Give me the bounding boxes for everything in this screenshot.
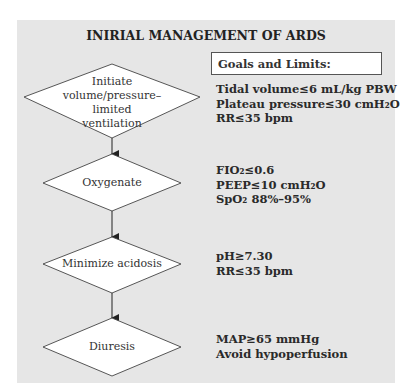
step-2-label-line: Oxygenate [52,176,172,190]
note-line: MAP≥65 mmHg [216,332,348,347]
step-3-label-line: Minimize acidosis [52,257,172,271]
step-1-notes: Tidal volume≤6 mL/kg PBW Plateau pressur… [216,82,400,126]
step-3-notes: pH≥7.30 RR≤35 bpm [216,249,293,278]
goals-and-limits-header: Goals and Limits: [211,52,382,75]
step-4-label-line: Diuresis [52,340,172,354]
step-3-label: Minimize acidosis [52,257,172,271]
step-1-label-line: volume/pressure–limited [44,89,180,117]
step-2-notes: FIO₂≤0.6 PEEP≤10 cmH₂O SpO₂ 88%–95% [216,163,326,207]
note-line: RR≤35 bpm [216,264,293,279]
step-4-notes: MAP≥65 mmHg Avoid hypoperfusion [216,332,348,361]
note-line: Tidal volume≤6 mL/kg PBW [216,82,400,97]
step-2-label: Oxygenate [52,176,172,190]
note-line: PEEP≤10 cmH₂O [216,178,326,193]
note-line: FIO₂≤0.6 [216,163,326,178]
step-1-label-line: Initiate [44,75,180,89]
step-1-label-line: ventilation [44,117,180,131]
note-line: SpO₂ 88%–95% [216,192,326,207]
note-line: Plateau pressure≤30 cmH₂O [216,97,400,112]
note-line: RR≤35 bpm [216,111,400,126]
step-1-label: Initiate volume/pressure–limited ventila… [44,75,180,131]
step-4-label: Diuresis [52,340,172,354]
note-line: pH≥7.30 [216,249,293,264]
note-line: Avoid hypoperfusion [216,347,348,362]
